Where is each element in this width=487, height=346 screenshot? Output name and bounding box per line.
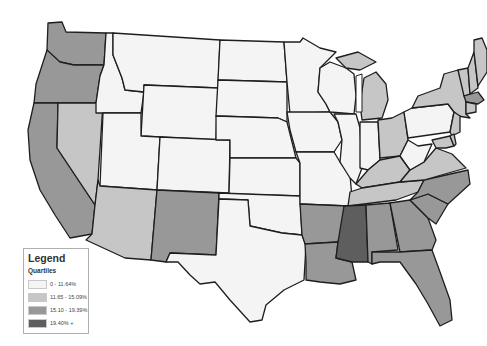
state-MI	[360, 72, 388, 120]
state-NM	[151, 190, 219, 262]
legend-title: Legend	[28, 252, 84, 264]
state-IA	[287, 112, 342, 152]
legend-item: 15.10 - 19.39%	[28, 304, 84, 316]
legend-item: 0 - 11.64%	[28, 278, 84, 290]
legend-label: 19.40% +	[50, 320, 73, 326]
legend-swatch-q2	[28, 293, 47, 302]
legend-label: 11.65 - 15.09%	[50, 294, 87, 300]
legend-swatch-q3	[28, 306, 47, 315]
lake-michigan	[356, 74, 362, 112]
legend-swatch-q4	[28, 319, 47, 328]
state-WY	[141, 85, 218, 140]
legend-item: 11.65 - 15.09%	[28, 291, 84, 303]
legend-item: 19.40% +	[28, 317, 84, 329]
legend-swatch-q1	[28, 280, 47, 289]
legend-subtitle: Quartiles	[28, 267, 84, 275]
map-legend: Legend Quartiles 0 - 11.64% 11.65 - 15.0…	[23, 248, 89, 334]
state-MT	[113, 33, 220, 92]
state-KS	[229, 158, 300, 196]
legend-label: 15.10 - 19.39%	[50, 307, 87, 313]
legend-label: 0 - 11.64%	[50, 281, 76, 287]
state-PA	[404, 104, 454, 138]
state-CO	[157, 137, 230, 193]
state-FL	[372, 250, 452, 326]
state-CT	[466, 102, 476, 114]
state-ND	[218, 40, 287, 82]
state-AZ	[86, 180, 157, 260]
